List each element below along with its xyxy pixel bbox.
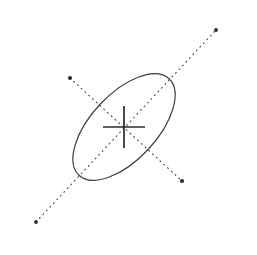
major-axis-endpoint-upper-right-dot	[214, 28, 218, 32]
major-axis-endpoint-lower-left-dot	[34, 220, 38, 224]
figure-canvas	[0, 0, 257, 255]
ellipse-diagram	[0, 0, 257, 255]
minor-axis-endpoint-upper-left-dot	[68, 76, 72, 80]
minor-axis-endpoint-lower-right-dot	[180, 179, 184, 183]
